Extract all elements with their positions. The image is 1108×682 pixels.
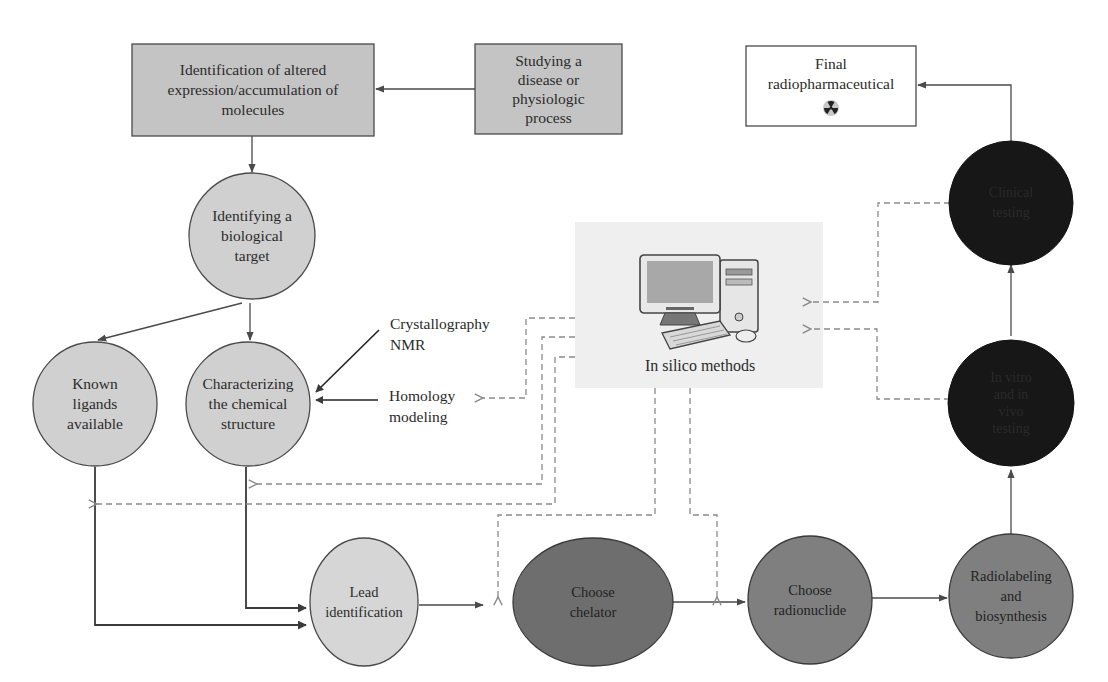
characterizing-label: Characterizing the chemical structure: [186, 342, 310, 466]
biological-target-label: Identifying a biological target: [189, 173, 315, 299]
radiopharmaceutical-development-flowchart: Identification of altered expression/acc…: [0, 0, 1108, 682]
crystallography-nmr-label: Crystallography NMR: [390, 313, 490, 355]
final-label: Final radiopharmaceutical: [746, 50, 916, 98]
dashed-clinical-to-insilico: [810, 203, 950, 302]
dashed-insilico-to-chelator-radionuclide: [690, 388, 717, 598]
radiolabeling-label: Radiolabeling and biosynthesis: [949, 534, 1073, 658]
dashed-invitro-to-insilico: [810, 329, 950, 399]
homology-modeling-label: Homology modeling: [389, 385, 455, 427]
radiation-icon: [823, 100, 839, 116]
chelator-label: Choose chelator: [513, 538, 673, 666]
dashed-insilico-to-known-ligands: [96, 357, 575, 504]
radionuclide-label: Choose radionuclide: [748, 536, 872, 664]
arrow-target-to-known-ligands: [98, 303, 242, 340]
arrow-crystallography-to-characterizing: [316, 330, 379, 392]
studying-label: Studying a disease or physiologic proces…: [475, 44, 622, 134]
known-ligands-label: Known ligands available: [33, 342, 157, 466]
clinical-label: Clinical testing: [949, 141, 1073, 265]
insilico-methods-label: In silico methods: [575, 357, 825, 375]
dashed-insilico-to-homology: [482, 318, 575, 398]
arrow-known-ligands-to-lead: [95, 467, 306, 625]
arrow-clinical-to-final: [918, 85, 1011, 143]
arrow-characterizing-to-lead: [246, 467, 306, 608]
invitro-label: In vitro and in vivo testing: [948, 340, 1074, 466]
identification-label: Identification of altered expression/acc…: [132, 44, 374, 136]
lead-identification-label: Lead identification: [310, 538, 418, 666]
